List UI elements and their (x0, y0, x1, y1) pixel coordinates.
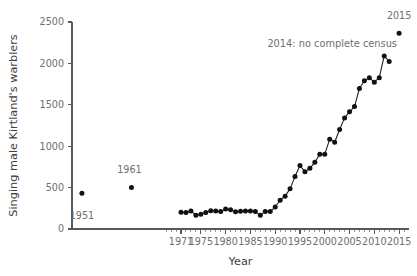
data-point (129, 185, 134, 190)
data-point (183, 210, 188, 215)
y-tick-label: 2500 (40, 16, 64, 27)
data-point (218, 209, 223, 214)
data-point (367, 75, 372, 80)
x-axis-title: Year (228, 255, 253, 268)
x-tick-label: 1995 (288, 236, 312, 247)
data-point (188, 209, 193, 214)
y-tick-label: 1000 (40, 141, 64, 152)
x-tick-label: 1990 (263, 236, 287, 247)
y-tick-label: 2000 (40, 58, 64, 69)
data-point (293, 174, 298, 179)
data-point (268, 209, 273, 214)
label-1961: 1961 (117, 164, 141, 175)
data-point (193, 213, 198, 218)
y-axis-ticks: 05001000150020002500 (40, 16, 72, 234)
data-series (79, 31, 401, 218)
data-point (248, 209, 253, 214)
data-point (208, 208, 213, 213)
warbler-population-chart: 05001000150020002500 1971197519801985199… (0, 0, 417, 276)
label-1951: 1951 (70, 210, 94, 221)
data-point (327, 137, 332, 142)
data-point (312, 160, 317, 165)
x-tick-label: 1980 (213, 236, 237, 247)
data-point (302, 169, 307, 174)
data-point (337, 127, 342, 132)
x-tick-label: 2015 (387, 236, 411, 247)
data-point (263, 209, 268, 214)
data-point (342, 115, 347, 120)
data-point (198, 212, 203, 217)
x-tick-label: 1975 (189, 236, 213, 247)
x-tick-label: 2005 (337, 236, 361, 247)
x-tick-label: 2000 (313, 236, 337, 247)
data-point (352, 104, 357, 109)
data-point (332, 140, 337, 145)
data-point (317, 152, 322, 157)
chart-container: 05001000150020002500 1971197519801985199… (0, 0, 417, 276)
data-point (347, 109, 352, 114)
data-point (397, 31, 402, 36)
data-point (297, 163, 302, 168)
label-2015: 2015 (387, 10, 411, 21)
data-point (288, 186, 293, 191)
y-tick-label: 0 (58, 223, 64, 234)
chart-annotations: 1951196120152014: no complete census (70, 10, 412, 221)
data-point (79, 191, 84, 196)
x-tick-label: 2010 (362, 236, 386, 247)
data-point (203, 210, 208, 215)
data-point (283, 194, 288, 199)
data-point (307, 166, 312, 171)
x-tick-label: 1985 (238, 236, 262, 247)
y-tick-label: 1500 (40, 99, 64, 110)
axis-lines (72, 22, 409, 229)
data-point (362, 78, 367, 83)
data-point (233, 209, 238, 214)
series-line-annual-census (181, 56, 389, 215)
y-axis-title: Singing male Kirtland's warblers (7, 34, 20, 217)
data-point (322, 152, 327, 157)
data-point (273, 205, 278, 210)
data-point (228, 207, 233, 212)
data-point (278, 198, 283, 203)
y-tick-label: 500 (46, 182, 64, 193)
data-point (213, 208, 218, 213)
data-point (238, 209, 243, 214)
data-point (377, 75, 382, 80)
data-point (258, 213, 263, 218)
data-point (223, 206, 228, 211)
data-point (387, 59, 392, 64)
data-point (382, 53, 387, 58)
data-point (179, 210, 184, 215)
x-axis-ticks: 1971197519801985199019952000200520102015 (166, 229, 411, 247)
data-point (253, 209, 258, 214)
data-point (372, 80, 377, 85)
data-point (243, 209, 248, 214)
note-2014-no-census: 2014: no complete census (267, 38, 397, 49)
data-point (357, 86, 362, 91)
